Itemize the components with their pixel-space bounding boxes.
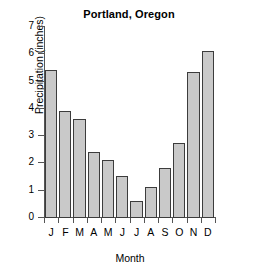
y-tick-label-3: 3: [18, 130, 34, 140]
y-tick-label-4: 4: [18, 103, 34, 113]
bar-O-9: [173, 143, 185, 218]
y-tick-label-5: 5: [18, 76, 34, 86]
x-tick-6: [130, 218, 131, 223]
x-tick-4: [101, 218, 102, 223]
bar-M-2: [73, 119, 85, 218]
x-tick-0: [44, 218, 45, 223]
x-tick-7: [144, 218, 145, 223]
bar-J-0: [45, 70, 57, 218]
bar-J-6: [130, 201, 142, 218]
bar-N-10: [187, 72, 199, 218]
y-tick-label-1: 1: [18, 185, 34, 195]
bar-J-5: [116, 176, 128, 218]
x-tick-1: [58, 218, 59, 223]
bar-S-8: [159, 168, 171, 218]
y-tick-label-2: 2: [18, 157, 34, 167]
x-tick-9: [172, 218, 173, 223]
x-tick-3: [87, 218, 88, 223]
bar-A-7: [145, 187, 157, 218]
x-tick-10: [187, 218, 188, 223]
bar-F-1: [59, 111, 71, 218]
x-tick-2: [73, 218, 74, 223]
y-tick-label-0: 0: [18, 212, 34, 222]
y-tick-label-6: 6: [18, 48, 34, 58]
precipitation-bar-chart: Portland, Oregon Precipitation (inches) …: [0, 0, 258, 276]
y-tick-label-7: 7: [18, 21, 34, 31]
x-tick-end: [215, 218, 216, 223]
bar-M-4: [102, 160, 114, 218]
x-axis-label: Month: [42, 252, 218, 264]
bar-A-3: [88, 152, 100, 218]
x-tick-8: [158, 218, 159, 223]
x-tick-5: [115, 218, 116, 223]
bar-D-11: [202, 51, 214, 218]
x-tick-label-11: D: [200, 226, 216, 238]
x-tick-11: [201, 218, 202, 223]
